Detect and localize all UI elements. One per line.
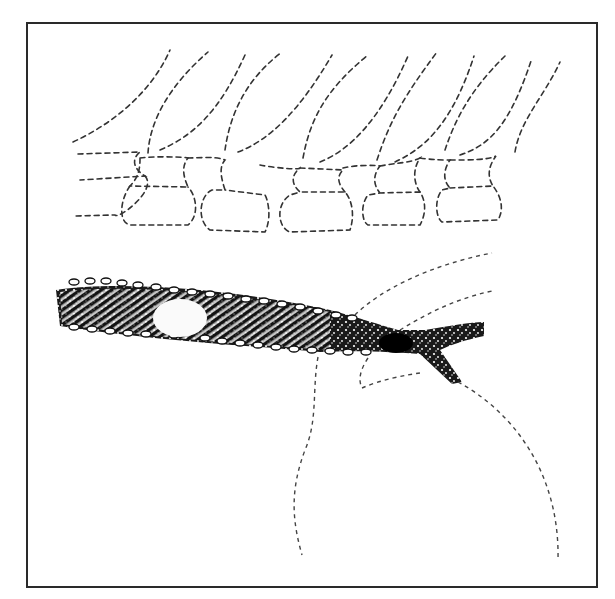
vertebral-column-outline (73, 50, 560, 232)
anatomical-diagram (0, 0, 615, 599)
stippled-tube (56, 278, 484, 384)
dark-solid-mass (379, 333, 413, 353)
clear-oval-lesion (153, 299, 207, 337)
rounded-organ-outline (294, 253, 558, 560)
